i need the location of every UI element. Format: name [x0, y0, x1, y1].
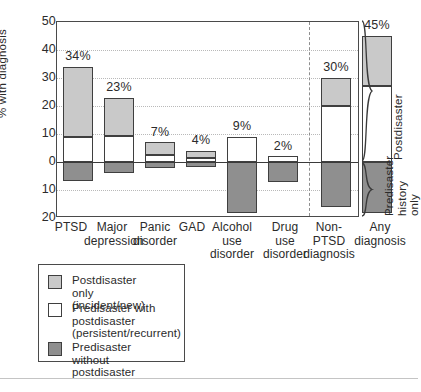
x-label-alcohol-use-disorder: Alcohol use disorder: [205, 221, 259, 262]
bar-ptsd-pre-without-post: [63, 162, 93, 181]
zero-axis-line: [57, 162, 358, 163]
legend-swatch-postdisaster-only: [48, 275, 62, 289]
bar-ptsd-pre-with-post: [63, 137, 93, 162]
y-tick-30: 30: [26, 70, 56, 84]
chart-legend: Postdisaster only (incident/new) Predisa…: [38, 264, 185, 362]
y-tick-10: 10: [26, 126, 56, 140]
y-tick-minus10: 10: [26, 182, 56, 196]
bar-panic-disorder-pre-with-post: [145, 155, 175, 162]
brace-label-predisaster-history-only: Predisaster history only: [383, 156, 421, 216]
bar-major-depression-pre-without-post: [104, 162, 134, 173]
brace-postdisaster-icon: [360, 20, 376, 162]
bar-drug-use-disorder: [268, 22, 298, 218]
bar-panic-disorder: [145, 22, 175, 218]
bar-non-ptsd-diagnosis-pre-without-post: [321, 162, 351, 207]
bar-label-gad: 4%: [171, 133, 231, 147]
group-divider: [309, 22, 310, 216]
y-tick-0: 0: [26, 154, 56, 168]
legend-label-pre-with-post: Predisaster with postdisaster (persisten…: [72, 302, 181, 340]
legend-swatch-pre-without-post: [48, 342, 62, 356]
bar-drug-use-disorder-pre-without-post: [268, 162, 298, 182]
bar-label-any-diagnosis: 45%: [347, 18, 407, 32]
x-label-any-diagnosis: Any diagnosis: [349, 221, 411, 248]
y-tick-20: 20: [26, 98, 56, 112]
plot-area: 34% 23% 7% 4% 9%: [56, 21, 359, 217]
bar-label-drug-use-disorder: 2%: [253, 139, 313, 153]
bar-ptsd-postdisaster-only: [63, 67, 93, 138]
footer-rule: [0, 378, 418, 379]
y-tick-50: 50: [26, 14, 56, 28]
y-axis-title: % with diagnosis: [0, 29, 8, 118]
bar-gad-postdisaster-only: [186, 151, 216, 158]
legend-label-pre-without-post: Predisaster without postdisaster: [72, 341, 135, 379]
bar-major-depression-pre-with-post: [104, 136, 134, 162]
bar-non-ptsd-diagnosis-pre-with-post: [321, 106, 351, 162]
bar-non-ptsd-diagnosis-postdisaster-only: [321, 78, 351, 106]
bar-label-ptsd: 34%: [48, 49, 108, 63]
brace-predisaster-icon: [360, 162, 376, 217]
bar-non-ptsd-diagnosis: [321, 22, 351, 218]
bar-alcohol-use-disorder-pre-without-post: [227, 162, 257, 213]
bar-label-major-depression: 23%: [89, 80, 149, 94]
bar-label-alcohol-use-disorder: 9%: [212, 119, 272, 133]
legend-swatch-pre-with-post: [48, 303, 62, 317]
brace-label-postdisaster: Postdisaster: [392, 94, 405, 160]
bar-label-non-ptsd-diagnosis: 30%: [306, 60, 366, 74]
bar-major-depression: [104, 22, 134, 218]
